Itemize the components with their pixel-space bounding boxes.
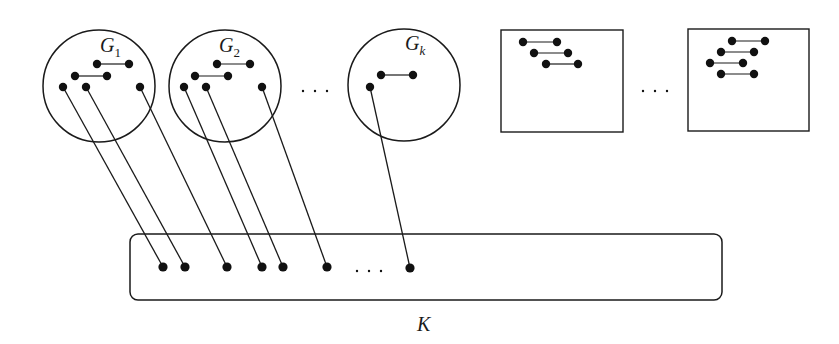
group-G1: G1	[43, 30, 155, 142]
vertex-node	[278, 262, 287, 271]
group-label: G1	[100, 34, 121, 60]
graph-boxes	[501, 29, 809, 132]
vertex-node	[574, 60, 582, 68]
connection-line	[370, 87, 410, 268]
vertex-node	[750, 70, 758, 78]
diagram-canvas: G1G2Gk K	[0, 0, 839, 344]
box-2	[688, 29, 809, 131]
set-K-label: K	[416, 313, 432, 335]
ellipsis-groups	[302, 90, 328, 92]
ellipsis-dot	[368, 270, 370, 272]
vertex-node	[191, 72, 199, 80]
vertex-node	[202, 83, 210, 91]
vertex-node	[180, 83, 188, 91]
vertex-node	[377, 71, 385, 79]
vertex-node	[258, 83, 266, 91]
vertex-node	[246, 60, 254, 68]
vertex-node	[158, 262, 167, 271]
ellipsis-dot	[380, 270, 382, 272]
vertex-node	[717, 48, 725, 56]
ellipsis-K	[356, 270, 382, 272]
vertex-node	[739, 59, 747, 67]
vertex-node	[82, 83, 90, 91]
vertex-node	[717, 70, 725, 78]
vertex-node	[222, 262, 231, 271]
ellipsis-dot	[666, 90, 668, 92]
vertex-node	[71, 72, 79, 80]
ellipsis-dot	[642, 90, 644, 92]
set-K-frame	[130, 234, 722, 300]
vertex-node	[409, 71, 417, 79]
vertex-node	[136, 83, 144, 91]
vertex-node	[213, 60, 221, 68]
vertex-node	[706, 59, 714, 67]
ellipsis-dot	[654, 90, 656, 92]
vertex-node	[180, 262, 189, 271]
vertex-node	[542, 60, 550, 68]
vertex-node	[530, 49, 538, 57]
ellipses	[302, 90, 668, 272]
ellipsis-dot	[302, 90, 304, 92]
box-frame	[501, 30, 623, 132]
ellipsis-dot	[314, 90, 316, 92]
vertex-node	[322, 262, 331, 271]
ellipsis-dot	[356, 270, 358, 272]
connection-lines	[63, 87, 410, 268]
group-G2: G2	[169, 30, 281, 142]
box-1	[501, 30, 623, 132]
vertex-node	[224, 72, 232, 80]
vertex-node	[553, 38, 561, 46]
vertex-node	[257, 262, 266, 271]
group-Gk: Gk	[348, 29, 460, 141]
vertex-node	[103, 72, 111, 80]
vertex-node	[405, 263, 414, 272]
connection-line	[184, 87, 262, 267]
vertex-node	[761, 37, 769, 45]
vertex-node	[59, 83, 67, 91]
group-circle	[348, 29, 460, 141]
group-label: Gk	[405, 32, 425, 58]
vertex-node	[366, 83, 374, 91]
vertex-node	[564, 49, 572, 57]
graph-groups: G1G2Gk	[43, 29, 460, 142]
box-frame	[688, 29, 809, 131]
vertex-node	[93, 60, 101, 68]
connection-line	[86, 87, 185, 267]
vertex-node	[728, 37, 736, 45]
connection-line	[140, 87, 227, 267]
vertex-node	[750, 48, 758, 56]
vertex-node	[125, 60, 133, 68]
ellipsis-boxes	[642, 90, 668, 92]
ellipsis-dot	[326, 90, 328, 92]
vertex-node	[519, 38, 527, 46]
group-label: G2	[219, 34, 240, 60]
